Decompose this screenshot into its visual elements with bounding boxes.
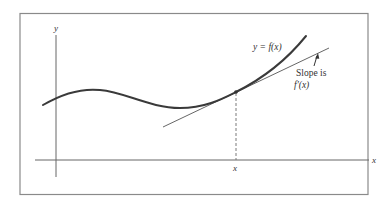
figure-frame [20,14,368,195]
tangency-point [234,90,238,94]
derivative-diagram: y x x y = f(x) Slope is f′(x) [0,0,389,208]
x-axis-label: x [371,155,376,165]
slope-annotation-line1: Slope is [296,68,327,78]
curve-label: y = f(x) [252,42,282,53]
y-axis-label: y [53,23,58,33]
slope-annotation-line2: f′(x) [294,80,309,91]
point-x-label: x [232,163,237,173]
